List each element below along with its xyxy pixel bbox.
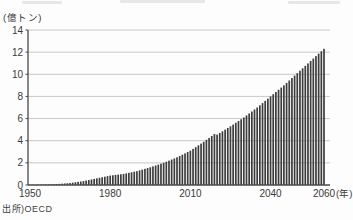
scanned-figure: (億トン) 0246810121419501980201020402060(年)… bbox=[0, 0, 353, 220]
bar bbox=[304, 66, 306, 185]
bar bbox=[168, 161, 170, 185]
bar bbox=[214, 134, 216, 185]
bar bbox=[280, 88, 282, 185]
bar bbox=[203, 142, 205, 185]
bar bbox=[259, 105, 261, 185]
source-label: 出所)OECD bbox=[2, 202, 53, 215]
cropped-text-smudge bbox=[120, 0, 205, 3]
bar bbox=[208, 138, 210, 185]
y-tick-label: 4 bbox=[17, 135, 23, 146]
bar bbox=[173, 158, 175, 185]
bar bbox=[283, 85, 285, 185]
y-tick-label: 6 bbox=[17, 113, 23, 124]
x-tick-label: 1980 bbox=[99, 188, 122, 199]
bar-chart: 0246810121419501980201020402060(年) bbox=[0, 24, 353, 200]
bar bbox=[131, 172, 133, 185]
bar bbox=[171, 160, 173, 185]
bar bbox=[216, 135, 218, 185]
bar bbox=[288, 80, 290, 185]
bar bbox=[227, 128, 229, 185]
bar bbox=[246, 115, 248, 185]
bar bbox=[125, 173, 127, 185]
bar bbox=[219, 133, 221, 185]
bar bbox=[272, 94, 274, 185]
bar bbox=[101, 177, 103, 185]
bar bbox=[294, 76, 296, 185]
bar bbox=[251, 111, 253, 185]
bar bbox=[128, 173, 130, 185]
y-tick-label: 14 bbox=[12, 25, 24, 36]
bar bbox=[141, 170, 143, 185]
bar bbox=[104, 177, 106, 185]
bar bbox=[198, 145, 200, 185]
bar bbox=[200, 144, 202, 185]
bar bbox=[182, 155, 184, 185]
bar bbox=[312, 59, 314, 185]
bar bbox=[136, 171, 138, 185]
bar bbox=[144, 169, 146, 185]
bar bbox=[286, 83, 288, 185]
bar bbox=[262, 103, 264, 185]
bar bbox=[222, 131, 224, 185]
bar bbox=[93, 179, 95, 185]
y-tick-label: 2 bbox=[17, 157, 23, 168]
bar bbox=[133, 172, 135, 185]
bar bbox=[88, 180, 90, 185]
bar bbox=[139, 170, 141, 185]
bar bbox=[310, 61, 312, 185]
bar bbox=[307, 63, 309, 185]
bar bbox=[323, 49, 325, 185]
bar bbox=[278, 90, 280, 185]
bar bbox=[147, 168, 149, 185]
x-axis-unit-label: (年) bbox=[336, 188, 352, 199]
cropped-text-smudge bbox=[22, 1, 62, 4]
bar bbox=[91, 179, 93, 185]
bar bbox=[85, 181, 87, 185]
bar bbox=[120, 174, 122, 185]
bar bbox=[176, 157, 178, 185]
bar bbox=[109, 176, 111, 185]
bar bbox=[240, 119, 242, 185]
bar bbox=[165, 162, 167, 185]
bar bbox=[112, 175, 114, 185]
bar bbox=[107, 176, 109, 185]
bar bbox=[195, 147, 197, 185]
bar bbox=[315, 56, 317, 185]
bar bbox=[302, 68, 304, 185]
y-tick-label: 10 bbox=[12, 69, 24, 80]
y-tick-label: 8 bbox=[17, 91, 23, 102]
bar bbox=[256, 108, 258, 186]
bar bbox=[296, 73, 298, 185]
x-tick-label: 2040 bbox=[259, 188, 282, 199]
bar bbox=[238, 121, 240, 185]
bar bbox=[187, 152, 189, 185]
bar bbox=[318, 54, 320, 185]
bar bbox=[320, 51, 322, 185]
bar bbox=[254, 109, 256, 185]
y-axis-unit-label: (億トン) bbox=[3, 10, 42, 24]
bar bbox=[163, 163, 165, 185]
bar bbox=[152, 166, 154, 185]
bar bbox=[149, 167, 151, 185]
bar bbox=[291, 78, 293, 185]
bar bbox=[184, 153, 186, 185]
bar bbox=[99, 178, 101, 185]
bar bbox=[232, 125, 234, 185]
bar bbox=[115, 175, 117, 185]
bar bbox=[299, 71, 301, 185]
bar bbox=[267, 99, 269, 185]
bar bbox=[155, 166, 157, 185]
bar bbox=[235, 123, 237, 185]
bar bbox=[224, 130, 226, 185]
bar bbox=[248, 113, 250, 185]
bar bbox=[117, 175, 119, 185]
bar bbox=[264, 101, 266, 185]
cropped-text-smudge bbox=[288, 1, 340, 4]
x-tick-label: 1950 bbox=[19, 188, 42, 199]
bar bbox=[160, 164, 162, 185]
bar bbox=[123, 174, 125, 185]
bar bbox=[230, 126, 232, 185]
bar bbox=[190, 151, 192, 185]
y-tick-label: 12 bbox=[12, 47, 24, 58]
x-tick-label: 2060 bbox=[313, 188, 336, 199]
